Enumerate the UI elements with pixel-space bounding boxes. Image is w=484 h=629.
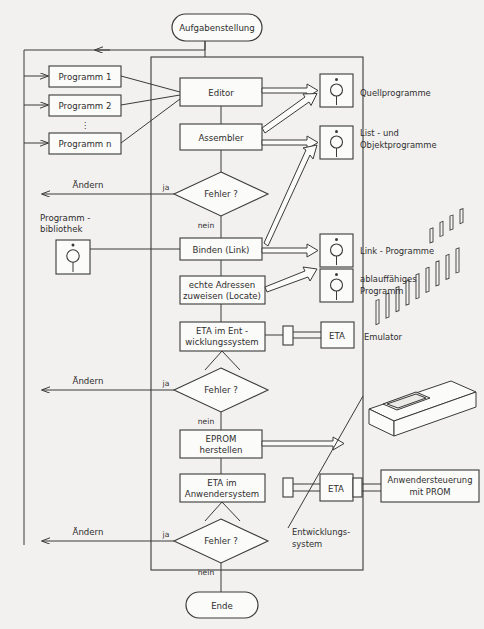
output-label-1a: Quellprogramme: [360, 88, 431, 98]
eta-user-box-label: ETA: [328, 484, 344, 494]
decision-no-1: nein: [198, 221, 215, 230]
emulator-label: Emulator: [364, 332, 403, 342]
output-label-2a: List - und: [360, 128, 399, 138]
eta-emulator-box-label: ETA: [329, 331, 345, 341]
loop-label-1: Ändern: [73, 180, 104, 190]
eta-dev-label-2: wicklungssystem: [185, 337, 258, 347]
block-arrow-locate-output: [265, 267, 317, 292]
eprom-dip-chip-icon: [369, 209, 476, 436]
eta-user-label-1: ETA im: [207, 478, 236, 488]
anwender-label-1: Anwendersteuerung: [388, 475, 473, 485]
decision-label-3: Fehler ?: [204, 536, 238, 546]
program-label-2: Programm 2: [59, 101, 112, 111]
container-label-1: Entwicklungs-: [292, 527, 350, 537]
left-feedback-rail: [24, 41, 205, 545]
editor-label: Editor: [208, 88, 234, 98]
flowchart-svg: Aufgabenstellung Ende Programm 1 Program…: [0, 0, 484, 629]
output-label-4b: Programm: [360, 286, 404, 296]
assembler-label: Assembler: [198, 133, 244, 143]
decision-no-2: nein: [198, 417, 215, 426]
program-label-1: Programm 1: [59, 72, 112, 82]
end-label: Ende: [211, 601, 233, 611]
block-arrow-assembler-source: [262, 94, 317, 134]
library-label-1: Programm -: [40, 213, 90, 223]
bus-connector-user-right: [353, 478, 362, 497]
eta-user-label-2: Anwendersystem: [185, 489, 259, 499]
decision-no-3: nein: [198, 568, 215, 577]
decision-yes-1: ja: [162, 183, 170, 192]
flowchart-canvas: Aufgabenstellung Ende Programm 1 Program…: [0, 0, 484, 629]
eta-dev-label-1: ETA im Ent -: [196, 326, 248, 336]
locate-label-2: zuweisen (Locate): [183, 291, 261, 301]
library-label-2: bibliothek: [40, 224, 82, 234]
block-arrow-link-output: [262, 244, 318, 257]
decision-label-2: Fehler ?: [204, 385, 238, 395]
decision-yes-3: ja: [162, 530, 170, 539]
output-label-2b: Objektprogramme: [360, 140, 437, 150]
loop-label-3: Ändern: [73, 527, 104, 537]
link-label: Binden (Link): [193, 245, 250, 255]
bus-connector-emulator: [283, 326, 293, 345]
block-arrow-eprom-chip: [262, 437, 344, 450]
program-label-n: Programm n: [59, 139, 112, 149]
decision-yes-2: ja: [162, 379, 170, 388]
output-label-3a: Link - Programme: [360, 246, 434, 256]
output-label-4a: ablauffähiges: [360, 274, 417, 284]
bus-connector-user-left: [283, 478, 293, 497]
anwender-label-2: mit PROM: [409, 487, 450, 497]
eprom-label-2: herstellen: [200, 445, 243, 455]
decision-label-1: Fehler ?: [204, 189, 238, 199]
loop-label-2: Ändern: [73, 376, 104, 386]
block-arrow-link-objects: [264, 145, 317, 246]
container-label-2: system: [292, 539, 322, 549]
start-label: Aufgabenstellung: [179, 23, 255, 33]
eprom-label-1: EPROM: [206, 434, 237, 444]
locate-label-1: echte Adressen: [189, 280, 255, 290]
program-ellipsis: ⋮: [81, 120, 90, 130]
